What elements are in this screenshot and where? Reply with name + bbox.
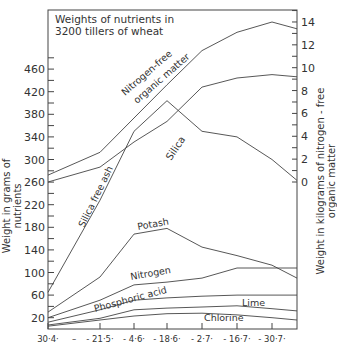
y-axis-right-ticks: 02468101214 [292, 11, 315, 189]
label-silica-free-ash: Silica free ash [76, 164, 115, 229]
y-right-tick-label: 14 [301, 16, 315, 29]
y-right-tick-label: 0 [301, 176, 308, 189]
y-right-tick-label: 4 [301, 130, 308, 143]
y-left-tick-label: 420 [24, 86, 45, 99]
x-tick-label: - 2·7· [191, 334, 213, 344]
x-tick-label: 30·4· [37, 334, 59, 344]
x-tick-label: - 30·7· [258, 334, 285, 344]
y-left-tick-label: 300 [24, 154, 45, 167]
label-potash: Potash [136, 216, 169, 232]
y-left-tick-label: 100 [24, 267, 45, 280]
x-tick-label: - 4·6· [123, 334, 145, 344]
label-chlorine: Chlorine [204, 312, 244, 323]
series-nitrogen [48, 268, 297, 318]
y-right-tick-label: 8 [301, 85, 308, 98]
y-left-tick-label: 220 [24, 199, 45, 212]
y-left-tick-label: 260 [24, 176, 45, 189]
x-tick-dash: – [72, 334, 76, 344]
label-silica: Silica [164, 134, 188, 162]
y-left-tick-label: 340 [24, 131, 45, 144]
x-tick-label: - 21·5· [86, 334, 113, 344]
label-nitrogen: Nitrogen [129, 264, 171, 282]
y-left-tick-label: 380 [24, 108, 45, 121]
y-right-tick-label: 12 [301, 39, 315, 52]
x-tick-label: - 16·7· [223, 334, 250, 344]
y-left-tick-label: 180 [24, 221, 45, 234]
y-left-tick-label: 60 [31, 289, 45, 302]
y-left-tick-label: 140 [24, 244, 45, 257]
series-chlorine [48, 313, 297, 326]
y-left-tick-label: 460 [24, 63, 45, 76]
y-right-tick-label: 2 [301, 153, 308, 166]
y-right-tick-label: 10 [301, 62, 315, 75]
label-lime: Lime [242, 297, 265, 308]
x-axis-ticks: 30·4·- 21·5·- 4·6·- 18·6·- 2·7·- 16·7·- … [37, 323, 286, 344]
series-silica [48, 75, 297, 182]
series-silica-free-ash [48, 101, 297, 293]
y-left-tick-label: 20 [31, 312, 45, 325]
y-axis-left-ticks: 2060100140180220260300340380420460 [24, 58, 54, 325]
x-tick-label: - 18·6· [153, 334, 180, 344]
y-right-tick-label: 6 [301, 107, 308, 120]
